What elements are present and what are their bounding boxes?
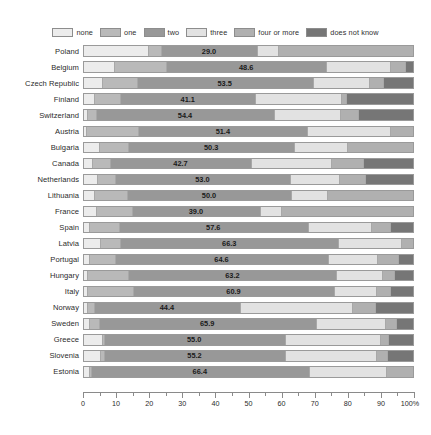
bar-segment-one[interactable]: [87, 287, 133, 297]
bar-segment-three[interactable]: [316, 319, 385, 329]
bar-segment-none[interactable]: [84, 207, 96, 217]
bar-segment-three[interactable]: [338, 239, 401, 249]
bar-segment-one[interactable]: [96, 207, 132, 217]
bar-segment-two[interactable]: [99, 319, 316, 329]
stacked-bar[interactable]: 63.2: [83, 270, 414, 282]
bar-segment-three[interactable]: [290, 175, 339, 185]
bar-segment-four-or-more[interactable]: [390, 62, 405, 72]
bar-segment-three[interactable]: [336, 271, 382, 281]
bar-segment-none[interactable]: [84, 143, 99, 153]
bar-segment-does-not-know[interactable]: [375, 303, 413, 313]
bar-segment-two[interactable]: [137, 78, 313, 88]
bar-segment-three[interactable]: [309, 367, 386, 377]
bar-segment-none[interactable]: [84, 335, 102, 345]
bar-segment-one[interactable]: [87, 303, 94, 313]
bar-segment-four-or-more[interactable]: [281, 207, 413, 217]
bar-segment-two[interactable]: [120, 94, 255, 104]
stacked-bar[interactable]: 29.0: [83, 45, 414, 57]
bar-segment-three[interactable]: [240, 303, 352, 313]
bar-segment-three[interactable]: [308, 223, 371, 233]
bar-segment-does-not-know[interactable]: [363, 159, 413, 169]
bar-segment-two[interactable]: [133, 287, 333, 297]
bar-segment-three[interactable]: [334, 287, 377, 297]
bar-segment-four-or-more[interactable]: [385, 319, 397, 329]
bar-segment-three[interactable]: [251, 159, 332, 169]
bar-segment-one[interactable]: [89, 223, 119, 233]
bar-segment-four-or-more[interactable]: [352, 303, 375, 313]
bar-segment-one[interactable]: [94, 191, 127, 201]
bar-segment-does-not-know[interactable]: [383, 78, 413, 88]
bar-segment-two[interactable]: [132, 207, 260, 217]
legend-entry-four-or-more[interactable]: four or more: [234, 28, 299, 37]
bar-segment-three[interactable]: [307, 127, 389, 137]
stacked-bar[interactable]: 66.4: [83, 366, 414, 378]
bar-segment-three[interactable]: [260, 207, 281, 217]
bar-segment-three[interactable]: [313, 78, 369, 88]
bar-segment-one[interactable]: [94, 94, 120, 104]
bar-segment-two[interactable]: [104, 351, 286, 361]
stacked-bar[interactable]: 50.0: [83, 190, 414, 202]
bar-segment-one[interactable]: [100, 239, 120, 249]
bar-segment-three[interactable]: [257, 46, 278, 56]
bar-segment-none[interactable]: [84, 239, 100, 249]
legend-entry-does-not-know[interactable]: does not know: [306, 28, 378, 37]
legend-entry-three[interactable]: three: [186, 28, 227, 37]
bar-segment-two[interactable]: [115, 175, 289, 185]
stacked-bar[interactable]: 64.6: [83, 254, 414, 266]
bar-segment-two[interactable]: [166, 62, 326, 72]
stacked-bar[interactable]: 66.3: [83, 238, 414, 250]
bar-segment-three[interactable]: [285, 335, 380, 345]
bar-segment-one[interactable]: [148, 46, 161, 56]
bar-segment-four-or-more[interactable]: [390, 127, 413, 137]
bar-segment-none[interactable]: [84, 78, 102, 88]
bar-segment-does-not-know[interactable]: [365, 175, 413, 185]
stacked-bar[interactable]: 55.2: [83, 350, 414, 362]
bar-segment-none[interactable]: [84, 46, 148, 56]
bar-segment-two[interactable]: [128, 143, 293, 153]
bar-segment-one[interactable]: [86, 127, 139, 137]
bar-segment-four-or-more[interactable]: [369, 78, 384, 88]
bar-segment-two[interactable]: [104, 335, 285, 345]
bar-segment-four-or-more[interactable]: [380, 335, 388, 345]
bar-segment-one[interactable]: [87, 271, 128, 281]
bar-segment-four-or-more[interactable]: [401, 239, 413, 249]
legend-entry-two[interactable]: two: [144, 28, 180, 37]
bar-segment-two[interactable]: [96, 110, 275, 120]
bar-segment-four-or-more[interactable]: [376, 351, 388, 361]
bar-segment-none[interactable]: [84, 191, 94, 201]
bar-segment-two[interactable]: [120, 239, 338, 249]
legend-entry-none[interactable]: none: [52, 28, 93, 37]
bar-segment-does-not-know[interactable]: [358, 110, 413, 120]
bar-segment-two[interactable]: [119, 223, 309, 233]
bar-segment-one[interactable]: [87, 110, 95, 120]
bar-segment-four-or-more[interactable]: [371, 223, 391, 233]
bar-segment-two[interactable]: [128, 271, 336, 281]
stacked-bar[interactable]: 42.7: [83, 158, 414, 170]
bar-segment-one[interactable]: [89, 319, 99, 329]
bar-segment-does-not-know[interactable]: [346, 94, 413, 104]
bar-segment-does-not-know[interactable]: [405, 62, 413, 72]
stacked-bar[interactable]: 65.9: [83, 318, 414, 330]
bar-segment-four-or-more[interactable]: [327, 191, 413, 201]
stacked-bar[interactable]: 44.4: [83, 302, 414, 314]
bar-segment-two[interactable]: [94, 303, 240, 313]
bar-segment-four-or-more[interactable]: [377, 255, 398, 265]
bar-segment-three[interactable]: [285, 351, 375, 361]
bar-segment-none[interactable]: [84, 94, 94, 104]
bar-segment-three[interactable]: [326, 62, 390, 72]
bar-segment-four-or-more[interactable]: [331, 159, 362, 169]
stacked-bar[interactable]: 57.6: [83, 222, 414, 234]
bar-segment-three[interactable]: [291, 191, 327, 201]
bar-segment-two[interactable]: [161, 46, 256, 56]
bar-segment-none[interactable]: [84, 62, 114, 72]
bar-segment-four-or-more[interactable]: [386, 367, 413, 377]
bar-segment-four-or-more[interactable]: [382, 271, 394, 281]
stacked-bar[interactable]: 50.3: [83, 142, 414, 154]
bar-segment-three[interactable]: [294, 143, 347, 153]
bar-segment-four-or-more[interactable]: [347, 143, 413, 153]
bar-segment-does-not-know[interactable]: [387, 351, 413, 361]
bar-segment-does-not-know[interactable]: [390, 287, 413, 297]
bar-segment-does-not-know[interactable]: [390, 223, 413, 233]
bar-segment-none[interactable]: [84, 351, 100, 361]
stacked-bar[interactable]: 53.5: [83, 77, 414, 89]
